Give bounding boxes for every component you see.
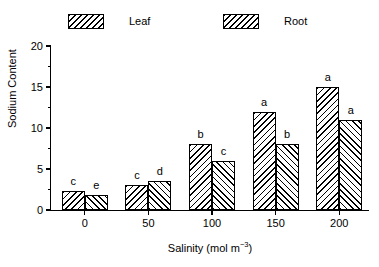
y-tick-minor [48, 189, 51, 190]
plot-area: 05101520 050100150200 cecdbcabaa [51, 46, 369, 210]
y-tick-major [46, 45, 51, 46]
x-tick-label: 150 [266, 218, 284, 229]
x-tick [84, 210, 85, 215]
significance-letter: d [157, 166, 163, 177]
x-tick [148, 210, 149, 215]
y-tick-minor [48, 66, 51, 67]
significance-letter: c [221, 146, 227, 157]
significance-letter: b [284, 129, 290, 140]
y-tick-major [46, 209, 51, 210]
significance-letter: a [348, 105, 354, 116]
bar-root-150 [276, 144, 299, 210]
bar-leaf-50 [125, 185, 148, 210]
bar-root-50 [148, 181, 171, 210]
bar-leaf-200 [316, 87, 339, 210]
x-tick [275, 210, 276, 215]
x-axis-title-main: Salinity (mol m [168, 242, 240, 254]
legend-label-root: Root [284, 16, 307, 27]
bar-root-200 [339, 120, 362, 210]
significance-letter: a [261, 97, 267, 108]
x-tick-label: 0 [82, 218, 88, 229]
y-tick-label: 20 [31, 41, 43, 52]
x-axis-title-superscript: −3 [240, 240, 249, 249]
bar-leaf-100 [189, 144, 212, 210]
x-tick-label: 50 [142, 218, 154, 229]
y-tick-label: 15 [31, 82, 43, 93]
legend-label-leaf: Leaf [129, 16, 150, 27]
y-tick-minor [48, 107, 51, 108]
bar-leaf-0 [62, 191, 85, 210]
significance-letter: c [134, 170, 140, 181]
x-tick [211, 210, 212, 215]
x-tick-label: 200 [330, 218, 348, 229]
y-tick-major [46, 86, 51, 87]
x-tick [339, 210, 340, 215]
y-tick-label: 5 [37, 164, 43, 175]
legend-swatch-leaf-icon [68, 14, 104, 29]
legend-swatch-root-icon [223, 14, 259, 29]
bar-root-100 [212, 161, 235, 210]
y-tick-major [46, 127, 51, 128]
y-axis-title: Sodium Content [7, 49, 18, 128]
significance-letter: e [93, 180, 99, 191]
significance-letter: a [325, 72, 331, 83]
x-tick-label: 100 [203, 218, 221, 229]
bar-root-0 [85, 195, 108, 210]
sodium-content-bar-chart: Leaf Root 05101520 050100150200 cecdbcab… [0, 0, 379, 267]
significance-letter: b [197, 129, 203, 140]
y-tick-label: 10 [31, 123, 43, 134]
bar-leaf-150 [253, 112, 276, 210]
y-tick-major [46, 168, 51, 169]
y-tick-label: 0 [37, 205, 43, 216]
legend-entry-leaf: Leaf [68, 14, 150, 29]
legend-entry-root: Root [223, 14, 307, 29]
chart-legend: Leaf Root [0, 0, 379, 40]
y-tick-minor [48, 148, 51, 149]
significance-letter: c [71, 176, 77, 187]
x-axis-title-close: ) [249, 242, 253, 254]
x-axis-title: Salinity (mol m−3) [51, 243, 369, 254]
